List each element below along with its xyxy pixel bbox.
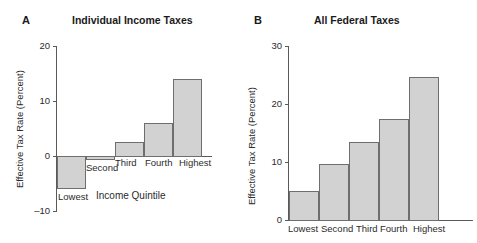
panel-b-letter: B bbox=[254, 14, 262, 26]
panel-a-letter: A bbox=[22, 14, 30, 26]
bar-highest bbox=[173, 79, 202, 157]
figure-two-panel-bar-charts: A Individual Income Taxes Effective Tax … bbox=[0, 0, 477, 243]
bar-highest bbox=[409, 77, 439, 221]
panel-b-ticklabel-10: 10 bbox=[254, 156, 282, 167]
panel-a-tick-20 bbox=[53, 46, 57, 47]
panel-a-ticklabel-20: 20 bbox=[22, 40, 50, 51]
panel-a-catlabel-highest: Highest bbox=[179, 157, 211, 168]
panel-b-all-federal-taxes: B All Federal Taxes Effective Tax Rate (… bbox=[238, 0, 477, 243]
bar-fourth bbox=[379, 119, 409, 221]
panel-a-tick-10 bbox=[53, 101, 57, 102]
panel-b-ticklabel-0: 0 bbox=[254, 214, 282, 225]
panel-a-catlabel-second: Second bbox=[86, 162, 118, 173]
panel-b-catlabel-highest: Highest bbox=[413, 223, 445, 234]
panel-b-ticklabel-20: 20 bbox=[254, 98, 282, 109]
panel-a-ticklabel-0: 0 bbox=[22, 150, 50, 161]
panel-b-tick-20 bbox=[285, 104, 289, 105]
panel-b-catlabel-fourth: Fourth bbox=[380, 223, 407, 234]
panel-a-catlabel-third: Third bbox=[115, 157, 137, 168]
panel-a-title: Individual Income Taxes bbox=[72, 14, 193, 26]
panel-b-tick-10 bbox=[285, 162, 289, 163]
panel-b-catlabel-second: Second bbox=[321, 223, 353, 234]
panel-a-y-axis-label: Effective Tax Rate (Percent) bbox=[14, 70, 25, 188]
bar-second bbox=[86, 156, 115, 160]
bar-lowest bbox=[289, 191, 319, 221]
panel-a-ticklabel-10: 10 bbox=[22, 95, 50, 106]
bar-third bbox=[115, 142, 144, 157]
bar-second bbox=[319, 164, 349, 221]
bar-fourth bbox=[144, 123, 173, 157]
panel-a-individual-income-taxes: A Individual Income Taxes Effective Tax … bbox=[0, 0, 238, 243]
panel-b-catlabel-third: Third bbox=[356, 223, 378, 234]
panel-b-catlabel-lowest: Lowest bbox=[288, 223, 318, 234]
bar-lowest bbox=[57, 156, 86, 189]
panel-b-title: All Federal Taxes bbox=[314, 14, 400, 26]
panel-b-tick-30 bbox=[285, 46, 289, 47]
panel-a-catlabel-lowest: Lowest bbox=[58, 191, 88, 202]
bar-third bbox=[349, 142, 379, 221]
panel-a-tick-neg10 bbox=[53, 211, 57, 212]
panel-a-ticklabel-neg10: –10 bbox=[18, 205, 50, 216]
panel-a-catlabel-fourth: Fourth bbox=[145, 157, 172, 168]
panel-b-ticklabel-30: 30 bbox=[254, 40, 282, 51]
panel-a-x-axis-label: Income Quintile bbox=[96, 190, 165, 201]
